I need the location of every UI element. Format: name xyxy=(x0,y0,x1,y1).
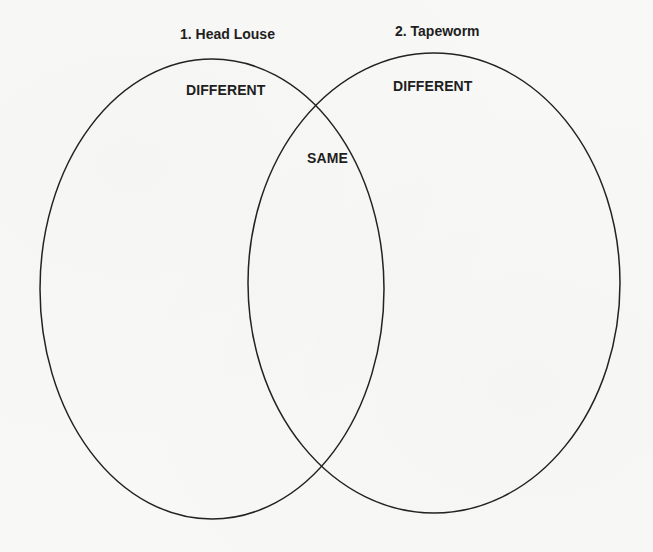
venn-diagram xyxy=(0,0,653,552)
tapeworm-ellipse xyxy=(248,53,620,513)
set-title-tapeworm: 2. Tapeworm xyxy=(395,24,480,38)
head-louse-ellipse xyxy=(40,59,384,519)
region-label-left-different: DIFFERENT xyxy=(186,83,265,97)
region-label-overlap-same: SAME xyxy=(307,151,348,165)
set-title-head-louse: 1. Head Louse xyxy=(180,27,275,41)
region-label-right-different: DIFFERENT xyxy=(393,79,472,93)
